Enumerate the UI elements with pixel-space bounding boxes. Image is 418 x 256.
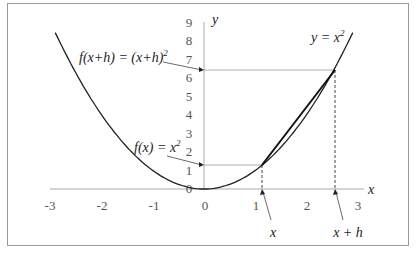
y-tick-label: 2 [186, 144, 193, 159]
x-point-label: x [269, 225, 277, 240]
arrowhead-icon [260, 189, 265, 195]
y-tick-label: 8 [186, 33, 193, 48]
parabola-plot: -3 -2 -1 0 1 2 3 0 1 2 3 4 5 6 7 8 9 x y… [0, 0, 418, 256]
fx-label: f(x) = x2 [134, 138, 181, 156]
xh-point-label: x + h [332, 225, 363, 240]
xh-pointer-line [336, 192, 343, 220]
x-pointer-line [263, 192, 271, 220]
secant-line [262, 70, 335, 165]
x-tick-label: 1 [253, 198, 260, 213]
y-tick-label: 5 [186, 89, 193, 104]
y-tick-label: 9 [186, 15, 193, 30]
y-tick-label: 0 [186, 181, 193, 196]
x-tick-label: -2 [97, 198, 108, 213]
fxh-pointer-line [163, 62, 202, 70]
x-tick-labels: -3 -2 -1 0 1 2 3 [45, 198, 362, 213]
fxh-label: f(x+h) = (x+h)2 [79, 48, 168, 66]
arrowhead-icon [199, 67, 204, 72]
y-tick-label: 1 [186, 163, 193, 178]
fx-pointer-line [167, 156, 202, 165]
y-tick-labels: 0 1 2 3 4 5 6 7 8 9 [186, 15, 193, 196]
x-axis-label: x [367, 182, 375, 197]
y-tick-label: 4 [186, 107, 193, 122]
y-tick-label: 3 [186, 126, 193, 141]
arrowhead-icon [199, 162, 204, 167]
x-tick-label: 2 [304, 198, 311, 213]
x-tick-label: 0 [202, 198, 209, 213]
y-tick-label: 7 [186, 52, 193, 67]
x-tick-label: -1 [149, 198, 160, 213]
y-tick-label: 6 [186, 70, 193, 85]
x-tick-label: 3 [355, 198, 362, 213]
y-axis-label: y [210, 12, 219, 27]
curve-label: y = x2 [309, 28, 345, 45]
arrowhead-icon [333, 189, 338, 195]
x-tick-label: -3 [45, 198, 56, 213]
